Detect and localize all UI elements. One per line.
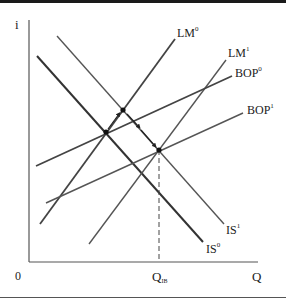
bottom-border-rule (0, 297, 286, 298)
bop0-label: BOP0 (235, 67, 262, 79)
is0-label: IS0 (206, 243, 220, 255)
y-axis-label: i (15, 18, 19, 31)
adjustment-arrow-3 (141, 130, 155, 146)
bop1-label: BOP1 (247, 104, 274, 116)
equilibrium-point-e2 (156, 147, 161, 152)
lm1-label: LM1 (228, 47, 250, 59)
origin-label: 0 (15, 270, 21, 282)
equilibrium-point-e1 (120, 107, 125, 112)
lm0-label: LM0 (177, 27, 199, 39)
is0-curve (37, 56, 203, 242)
adjustment-arrow-1 (108, 114, 119, 129)
is1-label: IS1 (226, 224, 240, 236)
q-ib-label: QIB (152, 270, 167, 283)
bop1-curve (46, 113, 243, 203)
x-axis-label: Q (252, 270, 261, 283)
is1-curve (57, 36, 224, 224)
equilibrium-point-e0 (103, 129, 108, 134)
